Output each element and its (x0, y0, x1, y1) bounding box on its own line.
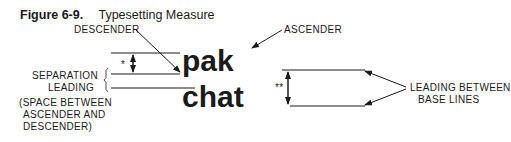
sample-word-top: pak (182, 46, 234, 76)
base-lines-label: BASE LINES (418, 94, 479, 106)
leading-label: LEADING (48, 82, 94, 94)
single-asterisk-mark: * (121, 59, 125, 71)
note-line-3: DESCENDER) (23, 121, 92, 133)
descender-label: DESCENDER (74, 24, 140, 36)
note-line-1: (SPACE BETWEEN (19, 97, 112, 109)
ascender-label: ASCENDER (284, 24, 342, 36)
sample-word-bottom: chat (182, 82, 244, 112)
separation-label: SEPARATION (32, 70, 98, 82)
note-line-2: ASCENDER AND (23, 109, 106, 121)
leading-between-label: LEADING BETWEEN (410, 82, 511, 94)
double-asterisk-mark: ** (275, 82, 283, 94)
